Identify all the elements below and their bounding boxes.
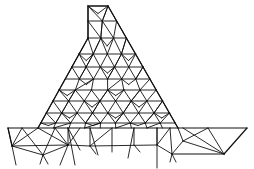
mesh-svg [0,0,254,169]
dam-mesh-diagram [0,0,254,169]
mesh-elements [8,6,224,168]
